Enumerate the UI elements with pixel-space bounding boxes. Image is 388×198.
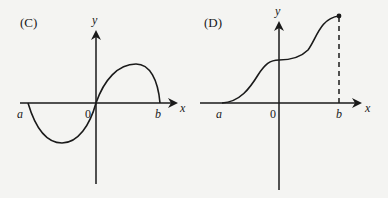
panel-d: (D) a 0 b x y: [200, 4, 371, 190]
graphs-figure: (C) a 0 b x y (D) a 0 b x y: [0, 0, 388, 198]
tick-b: b: [336, 107, 342, 121]
tick-a: a: [216, 107, 222, 121]
panel-c-label: (C): [20, 15, 37, 30]
y-axis-label: y: [91, 13, 98, 27]
panel-d-label: (D): [204, 15, 222, 30]
x-axis-label: x: [364, 101, 371, 115]
panel-c: (C) a 0 b x y: [17, 13, 186, 184]
curve-d: [222, 16, 339, 103]
endpoint-dot: [337, 14, 342, 19]
tick-a: a: [17, 107, 23, 121]
tick-b: b: [155, 107, 161, 121]
x-axis-label: x: [179, 101, 186, 115]
tick-origin: 0: [270, 107, 276, 121]
y-axis-label: y: [274, 4, 281, 18]
tick-origin: 0: [85, 107, 91, 121]
